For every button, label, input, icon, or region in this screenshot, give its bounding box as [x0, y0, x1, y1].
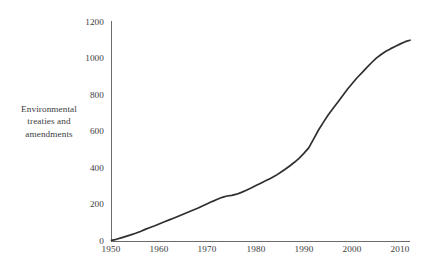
chart-figure: Environmental treaties and amendments 0 … [0, 0, 423, 273]
plot-canvas [0, 0, 423, 273]
axes-lines [112, 21, 411, 242]
data-series-line [112, 40, 411, 240]
